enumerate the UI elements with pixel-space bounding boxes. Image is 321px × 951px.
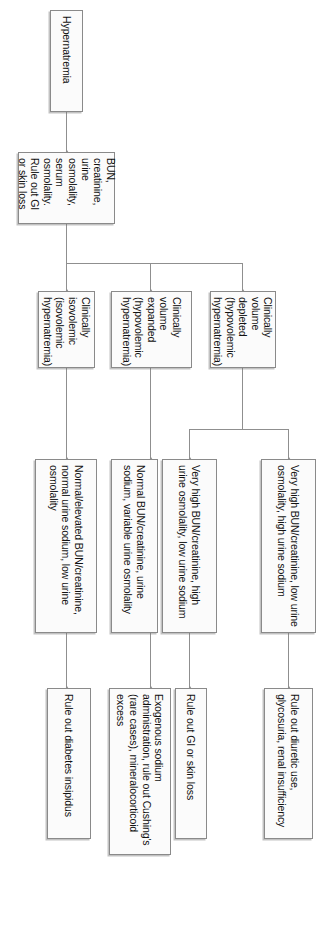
node-dx-diabetes-insipidus-label: Rule out diabetes insipidus — [63, 694, 76, 817]
node-labs-extrarenal-losses[interactable]: Very high BUN/creatinine, high urine osm… — [162, 459, 217, 633]
edge-to-dx-di — [66, 633, 67, 688]
node-initial-workup[interactable]: BUN, creatinine, urine osmolality, serum… — [18, 152, 115, 224]
edge-to-volume-expanded — [150, 263, 151, 291]
node-isovolemic-label: Clinically isovolemic (isovolemic hypern… — [41, 297, 91, 366]
node-dx-diuretic-glycosuria[interactable]: Rule out diuretic use, glycosuria, renal… — [264, 688, 313, 839]
edge-depleted-split — [189, 429, 289, 430]
edge-to-labs-normal — [150, 368, 151, 459]
node-dx-gi-skin-loss-label: Rule out GI or skin loss — [185, 694, 198, 800]
edge-to-dx-exogenous — [150, 633, 151, 688]
node-isovolemic[interactable]: Clinically isovolemic (isovolemic hypern… — [38, 291, 95, 368]
node-volume-expanded[interactable]: Clinically volume expanded (hypovolemic … — [111, 291, 192, 368]
edge-workup-distributor — [66, 263, 243, 264]
edge-to-dx-diuretic — [288, 633, 289, 688]
edge-to-labs-renal — [288, 429, 289, 459]
node-initial-workup-label: BUN, creatinine, urine osmolality, serum… — [16, 158, 117, 218]
node-hypernatremia[interactable]: Hypernatremia — [50, 10, 83, 112]
node-volume-depleted[interactable]: Clinically volume depleted (hypovolemic … — [210, 291, 276, 368]
edge-to-volume-depleted — [242, 263, 243, 291]
node-labs-normal-label: Normal BUN/creatinine, urine sodium, var… — [122, 465, 147, 627]
node-labs-diabetes-insipidus-label: Normal/elevated BUN/creatinine, normal u… — [47, 465, 85, 627]
edge-to-isovolemic — [66, 263, 67, 291]
edge-to-labs-di — [66, 368, 67, 459]
node-labs-normal[interactable]: Normal BUN/creatinine, urine sodium, var… — [111, 459, 158, 633]
node-labs-extrarenal-losses-label: Very high BUN/creatinine, high urine osm… — [177, 465, 202, 627]
edge-start-to-workup — [66, 112, 67, 152]
node-dx-exogenous-sodium-label: Exogenous sodium administration, rule ou… — [115, 694, 165, 849]
node-labs-diabetes-insipidus[interactable]: Normal/elevated BUN/creatinine, normal u… — [35, 459, 97, 633]
edge-to-labs-extrarenal — [189, 429, 190, 459]
node-dx-exogenous-sodium[interactable]: Exogenous sodium administration, rule ou… — [109, 688, 171, 855]
node-hypernatremia-label: Hypernatremia — [60, 16, 73, 84]
node-dx-diabetes-insipidus[interactable]: Rule out diabetes insipidus — [47, 688, 91, 839]
node-volume-expanded-label: Clinically volume expanded (hypovolemic … — [120, 297, 183, 366]
edge-workup-trunk — [66, 224, 67, 264]
node-dx-diuretic-glycosuria-label: Rule out diuretic use, glycosuria, renal… — [276, 694, 301, 833]
node-labs-renal-losses[interactable]: Very high BUN/creatinine, low urine osmo… — [261, 459, 316, 633]
edge-depleted-trunk — [242, 368, 243, 430]
edge-to-dx-gi-skin — [189, 633, 190, 688]
node-volume-depleted-label: Clinically volume depleted (hypovolemic … — [212, 297, 275, 366]
node-dx-gi-skin-loss[interactable]: Rule out GI or skin loss — [175, 688, 207, 839]
node-labs-renal-losses-label: Very high BUN/creatinine, low urine osmo… — [276, 465, 301, 627]
flowchart-canvas: Hypernatremia BUN, creatinine, urine osm… — [0, 0, 321, 951]
